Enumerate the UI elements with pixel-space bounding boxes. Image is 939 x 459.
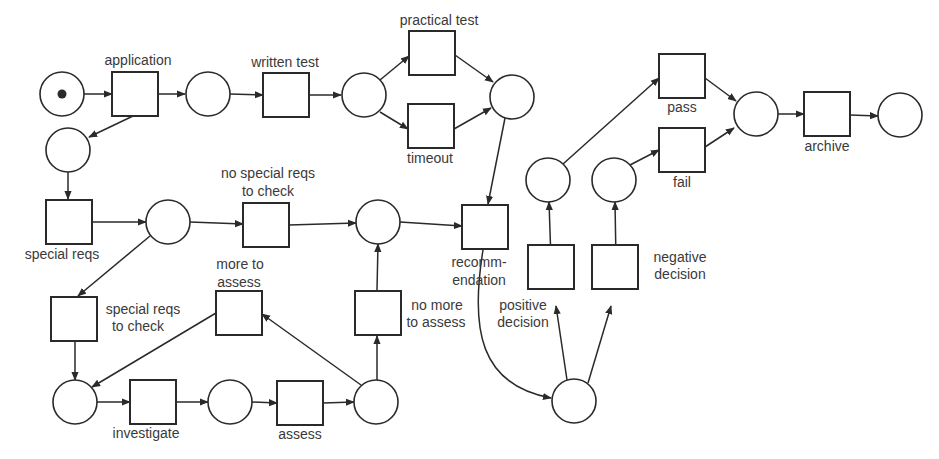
place-reqs-check <box>146 200 190 244</box>
label-no-more-to-assess-2: to assess <box>406 314 465 330</box>
arc <box>230 94 263 95</box>
place-result <box>734 92 778 136</box>
label-negative-decision-1: negative <box>654 249 707 265</box>
label-special-reqs-to-check-2: to check <box>112 318 165 334</box>
transition-application[interactable] <box>112 72 158 116</box>
arc <box>630 150 659 165</box>
arc <box>850 115 878 116</box>
arc <box>323 402 354 403</box>
place-negative <box>592 158 636 202</box>
transition-investigate[interactable] <box>130 380 176 424</box>
arc <box>89 116 133 137</box>
transition-pass[interactable] <box>659 54 705 98</box>
petri-net-diagram: application written test practical test … <box>0 0 939 459</box>
arc <box>455 55 493 82</box>
label-investigate: investigate <box>113 425 180 441</box>
transition-timeout[interactable] <box>408 104 454 148</box>
transition-assess[interactable] <box>277 381 323 425</box>
transition-special-reqs-to-check[interactable] <box>51 297 97 341</box>
label-recommendation-1: recomm- <box>451 254 507 270</box>
place-after-written-test <box>342 73 386 117</box>
label-application: application <box>105 52 172 68</box>
arc <box>705 128 734 147</box>
label-fail: fail <box>673 174 691 190</box>
transition-fail[interactable] <box>659 128 705 172</box>
place-assess <box>208 380 252 424</box>
transition-negative-decision[interactable] <box>592 245 638 289</box>
place-investigate <box>53 380 97 424</box>
transition-archive[interactable] <box>804 92 850 136</box>
place-assessed <box>354 380 398 424</box>
arc <box>400 222 462 226</box>
place-positive <box>526 158 570 202</box>
label-no-more-to-assess-1: no more <box>411 297 463 313</box>
label-more-to-assess-2: assess <box>217 274 261 290</box>
transition-more-to-assess[interactable] <box>216 291 262 335</box>
label-practical-test: practical test <box>400 12 479 28</box>
label-pass: pass <box>667 99 697 115</box>
transition-no-special-reqs[interactable] <box>243 203 289 247</box>
arc <box>190 222 243 224</box>
arc <box>380 112 408 129</box>
place-ready-recommend <box>356 200 400 244</box>
arc <box>488 118 505 204</box>
place-after-practical <box>490 75 534 119</box>
arc <box>252 402 277 403</box>
transition-recommendation[interactable] <box>462 205 508 249</box>
arc <box>380 56 409 80</box>
label-more-to-assess-1: more to <box>216 256 264 272</box>
label-positive-decision-2: decision <box>497 314 548 330</box>
label-no-special-reqs-1: no special reqs <box>221 165 315 181</box>
label-negative-decision-2: decision <box>654 266 705 282</box>
label-archive: archive <box>804 138 849 154</box>
place-decision <box>552 379 596 423</box>
label-assess: assess <box>278 426 322 442</box>
label-positive-decision-1: positive <box>499 297 547 313</box>
arc <box>556 306 567 380</box>
place-after-application <box>186 72 230 116</box>
label-written-test: written test <box>250 54 319 70</box>
arc <box>289 223 356 225</box>
arc <box>377 244 378 290</box>
arc <box>588 306 611 383</box>
transition-written-test[interactable] <box>263 73 309 117</box>
arc <box>563 78 659 164</box>
token <box>58 90 67 99</box>
label-special-reqs-to-check-1: special reqs <box>106 301 181 317</box>
transition-positive-decision[interactable] <box>528 245 574 289</box>
label-timeout: timeout <box>407 150 453 166</box>
transition-practical-test[interactable] <box>409 31 455 75</box>
label-no-special-reqs-2: to check <box>242 183 295 199</box>
arc <box>705 78 736 101</box>
label-recommendation-2: endation <box>452 272 506 288</box>
transition-special-reqs[interactable] <box>46 200 92 244</box>
label-special-reqs: special reqs <box>25 246 100 262</box>
arc <box>262 314 361 385</box>
place-end <box>878 93 922 137</box>
place-special <box>46 128 90 172</box>
arc <box>454 108 491 129</box>
transition-no-more-to-assess[interactable] <box>355 291 401 335</box>
